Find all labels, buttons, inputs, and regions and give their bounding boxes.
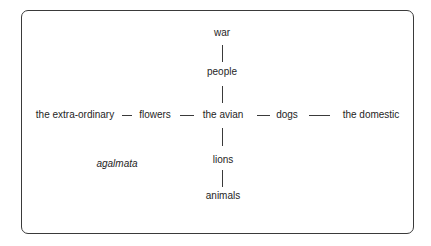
node-avian: the avian <box>203 109 244 121</box>
edge-avian-dogs <box>257 115 270 116</box>
node-domestic: the domestic <box>343 109 400 121</box>
node-extraordinary: the extra-ordinary <box>36 109 114 121</box>
node-agalmata: agalmata <box>96 158 137 170</box>
node-dogs: dogs <box>276 109 298 121</box>
edge-avian-lions <box>222 128 223 146</box>
node-people: people <box>207 66 237 78</box>
node-flowers: flowers <box>139 109 171 121</box>
edge-flowers-avian <box>180 115 194 116</box>
edge-war-people <box>222 45 223 62</box>
edge-lions-animals <box>222 170 223 187</box>
node-war: war <box>214 27 230 39</box>
node-lions: lions <box>213 154 234 166</box>
edge-dogs-domestic <box>309 115 330 116</box>
edge-extraordinary-flowers <box>122 115 132 116</box>
node-animals: animals <box>206 190 240 202</box>
edge-people-avian <box>222 86 223 103</box>
